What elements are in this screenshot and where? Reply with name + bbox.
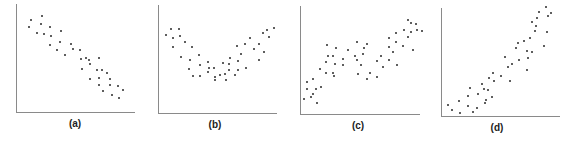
data-point xyxy=(109,78,111,80)
data-point xyxy=(236,45,238,47)
data-point xyxy=(366,43,368,45)
data-point xyxy=(527,57,529,59)
data-point xyxy=(395,32,397,34)
data-point xyxy=(49,44,51,46)
data-point xyxy=(392,51,394,53)
data-point xyxy=(469,87,471,89)
data-point xyxy=(207,61,209,63)
data-point xyxy=(266,29,268,31)
data-point xyxy=(172,37,174,39)
data-point xyxy=(325,61,327,63)
data-point xyxy=(354,55,356,57)
data-point xyxy=(249,37,251,39)
data-point xyxy=(199,64,201,66)
data-point xyxy=(538,11,540,13)
data-point xyxy=(228,63,230,65)
data-point xyxy=(224,73,226,75)
data-point xyxy=(258,59,260,61)
panel-b-label: (b) xyxy=(209,119,222,130)
data-point xyxy=(244,43,246,45)
data-point xyxy=(492,72,494,74)
data-point xyxy=(118,97,120,99)
data-point xyxy=(376,76,378,78)
data-point xyxy=(72,48,74,50)
data-point xyxy=(240,53,242,55)
data-point xyxy=(477,93,479,95)
data-point xyxy=(447,104,449,106)
data-point xyxy=(263,51,265,53)
data-point xyxy=(85,57,87,59)
data-point xyxy=(395,41,397,43)
data-point xyxy=(88,59,90,61)
data-point xyxy=(253,48,255,50)
data-point xyxy=(531,21,533,23)
data-point xyxy=(536,17,538,19)
data-point xyxy=(219,74,221,76)
data-point xyxy=(70,43,72,45)
data-point xyxy=(388,37,390,39)
data-point xyxy=(258,43,260,45)
data-point xyxy=(56,49,58,51)
data-point xyxy=(28,26,30,28)
data-point xyxy=(333,75,335,77)
data-point xyxy=(122,89,124,91)
data-point xyxy=(534,30,536,32)
panel-d-y-axis xyxy=(441,8,442,116)
data-point xyxy=(64,54,66,56)
data-point xyxy=(376,60,378,62)
data-point xyxy=(237,60,239,62)
data-point xyxy=(316,102,318,104)
data-point xyxy=(334,63,336,65)
data-point xyxy=(476,107,478,109)
data-point xyxy=(310,96,312,98)
data-point xyxy=(458,100,460,102)
data-point xyxy=(214,79,216,81)
data-point xyxy=(60,30,62,32)
panel-b-y-axis xyxy=(158,5,159,113)
data-point xyxy=(89,78,91,80)
data-point xyxy=(319,68,321,70)
data-point xyxy=(407,19,409,21)
data-point xyxy=(363,47,365,49)
data-point xyxy=(356,41,358,43)
data-point xyxy=(459,112,461,114)
data-point xyxy=(488,77,490,79)
data-point xyxy=(366,78,368,80)
data-point xyxy=(188,68,190,70)
data-point xyxy=(535,25,537,27)
data-point xyxy=(30,19,32,21)
data-point xyxy=(407,36,409,38)
data-point xyxy=(481,83,483,85)
data-point xyxy=(184,41,186,43)
data-point xyxy=(214,76,216,78)
data-point xyxy=(342,58,344,60)
data-point xyxy=(421,30,423,32)
panel-d-x-axis xyxy=(441,116,560,117)
data-point xyxy=(102,90,104,92)
data-point xyxy=(208,67,210,69)
data-point xyxy=(388,59,390,61)
data-point xyxy=(43,33,45,35)
data-point xyxy=(483,88,485,90)
data-point xyxy=(306,88,308,90)
data-point xyxy=(268,36,270,38)
data-point xyxy=(191,46,193,48)
data-point xyxy=(493,80,495,82)
data-point xyxy=(402,45,404,47)
data-point xyxy=(526,50,528,52)
data-point xyxy=(335,47,337,49)
data-point xyxy=(547,15,549,17)
data-point xyxy=(518,59,520,61)
data-point xyxy=(79,49,81,51)
data-point xyxy=(228,69,230,71)
data-point xyxy=(382,66,384,68)
data-point xyxy=(229,57,231,59)
data-point xyxy=(59,41,61,43)
data-point xyxy=(347,49,349,51)
data-point xyxy=(515,47,517,49)
data-point xyxy=(40,23,42,25)
data-point xyxy=(467,95,469,97)
data-point xyxy=(403,29,405,31)
data-point xyxy=(81,68,83,70)
data-point xyxy=(517,42,519,44)
